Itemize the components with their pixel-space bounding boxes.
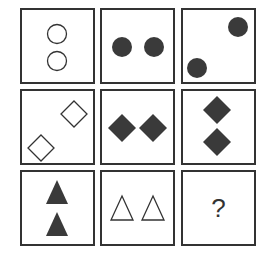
cell-r3-c2 — [100, 170, 175, 246]
cell-r1-c1 — [20, 8, 95, 84]
solid-diamonds-vertical-icon — [183, 91, 254, 163]
solid-circles-diagonal-icon — [183, 10, 254, 82]
cell-r1-c3 — [181, 8, 256, 84]
solid-circles-horizontal-icon — [102, 10, 173, 82]
cell-r2-c3 — [181, 89, 256, 165]
cell-r2-c2 — [100, 89, 175, 165]
question-mark: ? — [183, 172, 254, 244]
solid-diamonds-horizontal-icon — [102, 91, 173, 163]
cell-r3-c1 — [20, 170, 95, 246]
cell-r1-c2 — [100, 8, 175, 84]
cell-r2-c1 — [20, 89, 95, 165]
hollow-triangles-horizontal-icon — [102, 172, 173, 244]
hollow-circles-vertical-icon — [22, 10, 93, 82]
solid-triangles-vertical-icon — [22, 172, 93, 244]
hollow-diamonds-diagonal-icon — [22, 91, 93, 163]
cell-r3-c3-missing: ? — [181, 170, 256, 246]
